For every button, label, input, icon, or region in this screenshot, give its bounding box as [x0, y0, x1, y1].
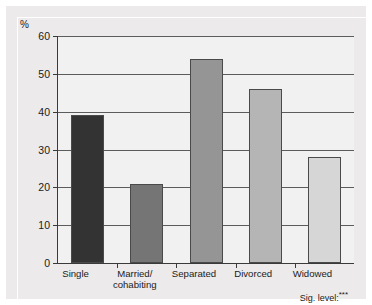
y-axis-unit-label: % — [20, 19, 29, 30]
y-axis-tick-label: 30 — [38, 144, 50, 156]
plot-area: 0102030405060 — [57, 36, 354, 264]
x-axis-category-label-line1: Married/ — [105, 268, 164, 279]
y-axis-tick-mark — [53, 187, 58, 188]
significance-level-stars: *** — [339, 290, 348, 299]
bar — [249, 89, 282, 263]
x-axis-category-label: Separated — [164, 268, 223, 279]
x-axis-category-label-line1: Divorced — [224, 268, 283, 279]
x-axis-category-label-line2: cohabiting — [105, 279, 164, 290]
y-axis-tick-label: 20 — [38, 181, 50, 193]
y-axis-tick-mark — [53, 74, 58, 75]
y-axis-tick-mark — [53, 36, 58, 37]
y-axis-tick-mark — [53, 112, 58, 113]
x-axis-category-label: Married/cohabiting — [105, 268, 164, 290]
significance-level-prefix: Sig. level: — [300, 293, 339, 303]
significance-level-note: Sig. level:*** — [300, 290, 348, 303]
x-axis-category-label-line1: Single — [46, 268, 105, 279]
x-axis-category-label: Widowed — [283, 268, 342, 279]
y-axis-tick-label: 50 — [38, 68, 50, 80]
gridline — [58, 36, 354, 37]
bar — [190, 59, 223, 263]
y-axis-tick-mark — [53, 150, 58, 151]
bar — [308, 157, 341, 263]
x-axis-category-label-line1: Widowed — [283, 268, 342, 279]
bar — [130, 184, 163, 263]
y-axis-tick-mark — [53, 263, 58, 264]
bar-chart-figure: % 0102030405060 SingleMarried/cohabiting… — [0, 0, 372, 305]
y-axis-tick-mark — [53, 225, 58, 226]
x-axis-category-label: Divorced — [224, 268, 283, 279]
y-axis-tick-label: 60 — [38, 30, 50, 42]
x-axis-category-label-line1: Separated — [164, 268, 223, 279]
figure-frame: % 0102030405060 SingleMarried/cohabiting… — [6, 6, 366, 299]
bar — [71, 115, 104, 263]
y-axis-tick-label: 10 — [38, 219, 50, 231]
x-axis-category-label: Single — [46, 268, 105, 279]
y-axis-tick-label: 40 — [38, 106, 50, 118]
